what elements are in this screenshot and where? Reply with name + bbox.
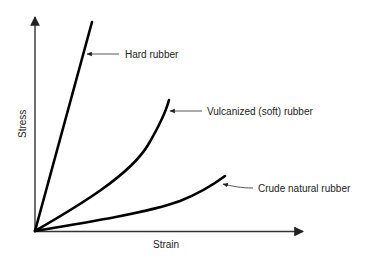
- label-vulcanized-rubber: Vulcanized (soft) rubber: [207, 106, 313, 117]
- y-axis-label: Stress: [17, 110, 28, 138]
- curve-crude-natural-rubber: [35, 176, 225, 231]
- leader-crude-natural-rubber: [223, 184, 253, 188]
- stress-strain-diagram: Hard rubber Vulcanized (soft) rubber Cru…: [0, 0, 369, 257]
- x-axis-label: Strain: [153, 239, 179, 250]
- curve-hard-rubber: [35, 22, 92, 231]
- label-hard-rubber: Hard rubber: [125, 49, 179, 60]
- label-crude-natural-rubber: Crude natural rubber: [258, 183, 351, 194]
- curve-vulcanized-rubber: [35, 100, 169, 231]
